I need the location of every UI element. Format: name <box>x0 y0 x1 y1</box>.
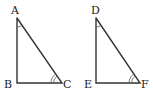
triangle-abc-edges <box>17 18 62 83</box>
vertex-label-d: D <box>91 4 100 17</box>
vertex-label-b: B <box>4 78 12 91</box>
triangle-def-edges <box>96 18 140 83</box>
vertex-label-a: A <box>10 4 20 17</box>
triangle-abc: A B C <box>4 4 71 91</box>
triangles-diagram: A B C D E F <box>0 0 153 100</box>
vertex-label-e: E <box>84 78 92 91</box>
angle-a-arc <box>17 25 22 27</box>
angle-d-arc <box>96 26 101 28</box>
vertex-label-f: F <box>141 78 149 91</box>
triangle-def: D E F <box>84 4 149 91</box>
angle-c-arc-inner <box>54 76 58 83</box>
angle-f-arc-inner <box>132 76 136 83</box>
vertex-label-c: C <box>63 78 71 91</box>
